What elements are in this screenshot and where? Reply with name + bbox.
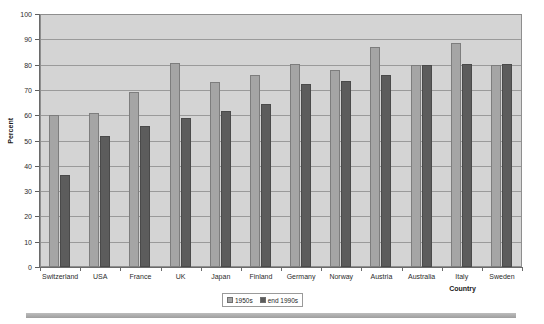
y-tick-mark (35, 14, 39, 15)
bar-group (41, 15, 81, 267)
bar-group (403, 15, 443, 267)
bar-switzerland-series2 (60, 175, 70, 267)
bar-japan-series2 (221, 111, 231, 267)
y-tick-label: 10 (24, 238, 32, 245)
y-tick-label: 90 (24, 36, 32, 43)
x-tick-mark (161, 267, 162, 271)
y-tick-mark (35, 90, 39, 91)
y-tick-mark (35, 191, 39, 192)
x-tick-mark (80, 267, 81, 271)
y-tick-label: 50 (24, 137, 32, 144)
bar-norway-series2 (341, 81, 351, 267)
legend-label: 1950s (235, 297, 253, 304)
x-tick-mark (482, 267, 483, 271)
bar-germany-series2 (301, 84, 311, 267)
x-tick-label-switzerland: Switzerland (42, 273, 78, 280)
y-axis-title: Percent (7, 118, 14, 144)
bar-italy-series1 (451, 43, 461, 267)
x-tick-label-finland: Finland (249, 273, 272, 280)
x-tick-mark (361, 267, 362, 271)
bar-group (282, 15, 322, 267)
bar-sweden-series2 (502, 64, 512, 267)
x-tick-mark (522, 267, 523, 271)
y-tick-label: 40 (24, 162, 32, 169)
bar-switzerland-series1 (49, 115, 59, 267)
y-tick-mark (35, 141, 39, 142)
bar-norway-series1 (330, 70, 340, 267)
x-tick-label-japan: Japan (211, 273, 230, 280)
bar-italy-series2 (462, 64, 472, 267)
bar-chart: 0102030405060708090100 SwitzerlandUSAFra… (0, 0, 544, 324)
y-tick-label: 20 (24, 213, 32, 220)
x-tick-mark (321, 267, 322, 271)
bar-group (443, 15, 483, 267)
bar-france-series2 (140, 126, 150, 267)
bar-austria-series1 (370, 47, 380, 268)
x-tick-label-usa: USA (93, 273, 107, 280)
x-tick-mark (201, 267, 202, 271)
x-tick-label-australia: Australia (408, 273, 435, 280)
x-tick-mark (402, 267, 403, 271)
bar-group (121, 15, 161, 267)
y-tick-label: 30 (24, 188, 32, 195)
bar-japan-series1 (210, 82, 220, 267)
x-tick-mark (120, 267, 121, 271)
y-tick-mark (35, 216, 39, 217)
bar-australia-series2 (422, 65, 432, 267)
y-tick-label: 70 (24, 86, 32, 93)
x-tick-label-austria: Austria (371, 273, 393, 280)
bar-group (202, 15, 242, 267)
bar-australia-series1 (411, 65, 421, 267)
x-tick-label-uk: UK (176, 273, 186, 280)
x-tick-mark (241, 267, 242, 271)
bar-group (81, 15, 121, 267)
x-tick-mark (281, 267, 282, 271)
y-axis: 0102030405060708090100 (0, 0, 40, 324)
y-tick-mark (35, 39, 39, 40)
y-tick-mark (35, 242, 39, 243)
y-tick-label: 80 (24, 61, 32, 68)
y-tick-mark (35, 65, 39, 66)
bar-germany-series1 (290, 64, 300, 267)
bar-finland-series1 (250, 75, 260, 267)
legend-item: 1950s (227, 297, 253, 304)
y-tick-mark (35, 115, 39, 116)
y-tick-mark (35, 267, 39, 268)
y-tick-mark (35, 166, 39, 167)
legend-swatch-icon (260, 297, 266, 303)
bar-usa-series2 (100, 136, 110, 267)
bar-group (483, 15, 523, 267)
x-tick-label-norway: Norway (329, 273, 353, 280)
chart-legend: 1950send 1990s (222, 293, 303, 307)
bar-group (322, 15, 362, 267)
legend-swatch-icon (227, 297, 233, 303)
x-tick-label-italy: Italy (455, 273, 468, 280)
legend-label: end 1990s (268, 297, 298, 304)
x-axis-title: Country (0, 285, 536, 292)
bars-layer (41, 15, 521, 267)
y-tick-label: 0 (28, 264, 32, 271)
bar-group (162, 15, 202, 267)
x-tick-mark (40, 267, 41, 271)
bar-group (242, 15, 282, 267)
x-tick-mark (442, 267, 443, 271)
y-tick-label: 100 (20, 11, 32, 18)
legend-item: end 1990s (260, 297, 298, 304)
bar-france-series1 (129, 92, 139, 267)
bar-finland-series2 (261, 104, 271, 267)
bar-uk-series2 (181, 118, 191, 267)
bar-usa-series1 (89, 113, 99, 267)
x-tick-label-france: France (130, 273, 152, 280)
y-tick-label: 60 (24, 112, 32, 119)
bottom-divider (26, 313, 516, 318)
bar-group (362, 15, 402, 267)
bar-austria-series2 (381, 75, 391, 267)
bar-sweden-series1 (491, 65, 501, 267)
bar-uk-series1 (170, 63, 180, 267)
x-tick-label-germany: Germany (287, 273, 316, 280)
x-tick-label-sweden: Sweden (489, 273, 514, 280)
